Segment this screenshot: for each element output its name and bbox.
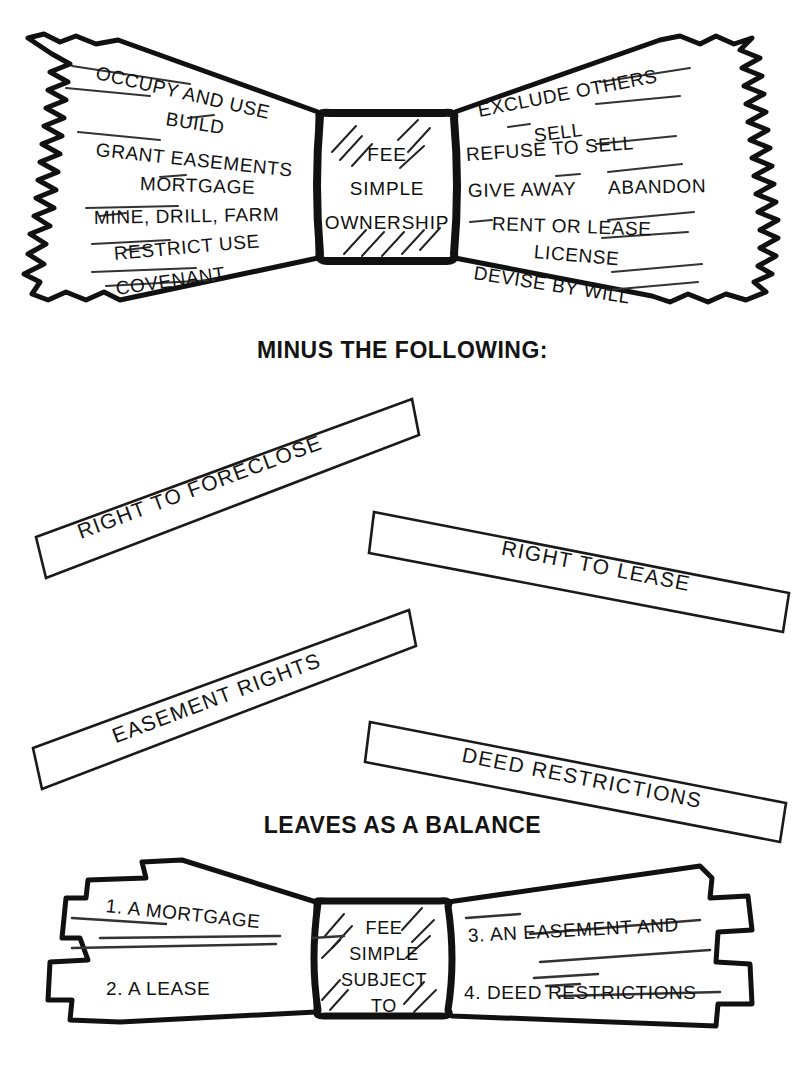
bottom-core-line-subject: SUBJECT xyxy=(318,970,450,991)
right-label-mine-drill-farm: MINE, DRILL, FARM xyxy=(94,204,280,229)
leaves-as-a-balance-heading: LEAVES AS A BALANCE xyxy=(0,812,805,839)
core-line-simple: SIMPLE xyxy=(320,178,454,200)
bottom-core-line-fee: FEE xyxy=(320,918,448,939)
core-line-ownership: OWNERSHIP xyxy=(318,212,456,234)
core-line-fee: FEE xyxy=(320,144,454,166)
right-label-abandon: ABANDON xyxy=(608,175,707,199)
right-label-give-away: GIVE AWAY xyxy=(468,178,577,202)
diagram-page: OCCUPY AND USE BUILD GRANT EASEMENTS MOR… xyxy=(0,0,805,1068)
bottom-core-line-to: TO xyxy=(320,996,448,1017)
minus-bars-group xyxy=(33,399,789,842)
bottom-item-deed-restrictions: 4. DEED RESTRICTIONS xyxy=(464,982,697,1004)
minus-the-following-heading: MINUS THE FOLLOWING: xyxy=(0,337,805,364)
bottom-item-lease: 2. A LEASE xyxy=(106,978,210,1000)
right-label-mortgage: MORTGAGE xyxy=(140,173,256,199)
bottom-core-line-simple: SIMPLE xyxy=(320,944,448,965)
